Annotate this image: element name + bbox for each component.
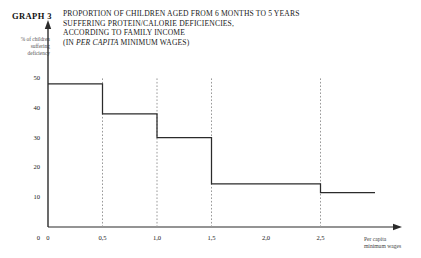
y-tick-label-4: 40 <box>24 104 40 111</box>
y-tick-label-2: 20 <box>24 163 40 170</box>
graph-figure: GRAPH 3 PROPORTION OF CHILDREN AGED FROM… <box>0 0 421 258</box>
y-tick-label-5: 50 <box>24 74 40 81</box>
x-axis-arrowhead <box>393 224 402 230</box>
x-tick-label-3: 1,5 <box>198 234 226 241</box>
x-tick-label-5: 2,5 <box>307 234 335 241</box>
y-tick-label-0: 0 <box>24 234 40 241</box>
y-axis-arrowhead <box>45 20 51 29</box>
x-tick-label-2: 1,0 <box>143 234 171 241</box>
x-tick-label-1: 0,5 <box>89 234 117 241</box>
plot-area <box>0 0 421 258</box>
x-tick-label-4: 2,0 <box>252 234 280 241</box>
y-tick-label-3: 30 <box>24 134 40 141</box>
y-tick-label-1: 10 <box>24 193 40 200</box>
